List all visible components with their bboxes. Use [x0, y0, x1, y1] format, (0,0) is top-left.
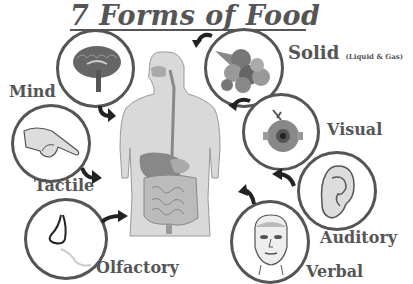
ear-icon	[318, 164, 358, 220]
diagram-title: 7 Forms of Food	[70, 0, 320, 31]
food-cornucopia-icon	[213, 43, 277, 95]
arrow-visual-to-body	[226, 95, 252, 113]
auditory-label: Auditory	[320, 228, 397, 247]
arrow-verbal-to-body	[236, 182, 258, 206]
tactile-circle	[11, 104, 91, 183]
arrow-auditory-to-body	[270, 166, 296, 188]
eyeball-icon	[259, 106, 307, 158]
arrow-olfactory-to-body	[100, 208, 130, 226]
hand-icon	[22, 121, 84, 161]
solid-label-text: Solid	[288, 42, 339, 63]
solid-label: Solid (Liquid & Gas)	[288, 42, 403, 63]
mind-circle	[56, 29, 135, 108]
olfactory-label: Olfactory	[96, 258, 179, 277]
brain-icon	[71, 44, 123, 92]
verbal-label: Verbal	[306, 262, 363, 281]
arrow-tactile-to-body	[80, 166, 104, 186]
mind-label: Mind	[9, 82, 56, 101]
arrow-mind-to-body	[96, 104, 118, 124]
visual-circle	[242, 93, 320, 171]
solid-sublabel: (Liquid & Gas)	[346, 52, 403, 61]
verbal-circle	[230, 200, 310, 284]
face-icon	[247, 213, 295, 277]
auditory-circle	[297, 151, 377, 231]
visual-label: Visual	[327, 120, 382, 139]
nose-icon	[41, 211, 97, 271]
arrow-solid-to-body	[190, 32, 214, 50]
